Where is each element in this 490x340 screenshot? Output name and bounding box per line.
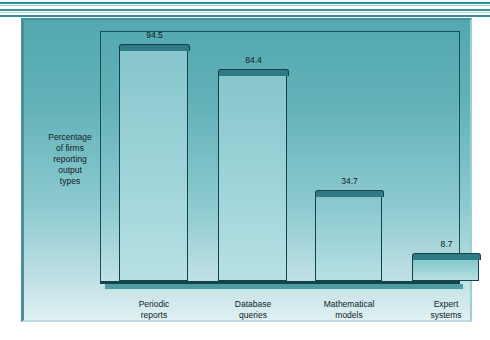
category-label-line-1: Expert: [401, 299, 490, 310]
decorative-rule-4: [0, 12, 490, 13]
category-label-line-2: systems: [401, 310, 490, 321]
category-label-expert-systems: Expert systems: [401, 299, 490, 321]
decorative-rule-5: [0, 15, 490, 17]
bar-mathematical-models[interactable]: 34.7: [315, 196, 382, 281]
bar-cap-database-queries: [218, 69, 289, 76]
decorative-rule-2: [0, 5, 490, 6]
bar-cap-periodic-reports: [119, 44, 190, 51]
decorative-rule-3: [0, 9, 490, 11]
bar-cap-expert-systems: [412, 253, 481, 260]
bar-value-mathematical-models: 34.7: [315, 176, 384, 186]
category-label-line-1: Mathematical: [304, 299, 394, 310]
category-label-line-2: queries: [208, 310, 298, 321]
y-axis-caption-line-5: types: [34, 176, 106, 187]
bar-database-queries[interactable]: 84.4: [218, 75, 287, 281]
category-label-periodic-reports: Periodic reports: [109, 299, 199, 321]
y-axis-caption-line-2: of firms: [34, 143, 106, 154]
bar-expert-systems[interactable]: 8.7: [412, 259, 479, 281]
y-axis-caption: Percentage of firms reporting output typ…: [34, 132, 106, 187]
y-axis-caption-line-4: output: [34, 165, 106, 176]
decorative-rule-1: [0, 2, 490, 4]
category-label-line-2: reports: [109, 310, 199, 321]
bar-value-periodic-reports: 94.5: [119, 30, 190, 40]
bar-cap-mathematical-models: [315, 190, 384, 197]
category-label-line-2: models: [304, 310, 394, 321]
baseline-shadow: [105, 284, 463, 289]
chart-panel: Percentage of firms reporting output typ…: [21, 18, 472, 322]
bar-value-database-queries: 84.4: [218, 55, 289, 65]
y-axis-caption-line-3: reporting: [34, 154, 106, 165]
y-axis-caption-line-1: Percentage: [34, 132, 106, 143]
bar-value-expert-systems: 8.7: [412, 239, 481, 249]
category-label-mathematical-models: Mathematical models: [304, 299, 394, 321]
category-label-line-1: Periodic: [109, 299, 199, 310]
baseline-axis: [100, 281, 460, 284]
category-label-line-1: Database: [208, 299, 298, 310]
category-label-database-queries: Database queries: [208, 299, 298, 321]
top-decorative-rules: [0, 0, 490, 18]
plot-area: 94.5 84.4 34.7 8.7 Periodic reports Data…: [100, 31, 460, 283]
bar-periodic-reports[interactable]: 94.5: [119, 50, 188, 281]
